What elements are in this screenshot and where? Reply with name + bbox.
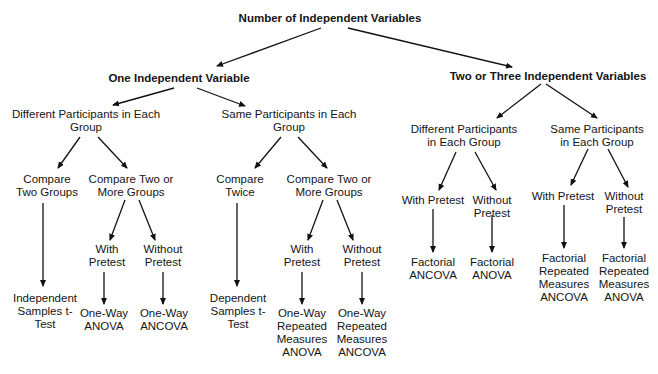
node-ts-with-pretest: With Pretest <box>532 190 595 203</box>
arrow-od-more-to-with <box>110 200 125 240</box>
result-one-way-repeated-measures-ancova: One-Way Repeated Measures ANCOVA <box>337 307 388 359</box>
arrow-diff-to-compare-two <box>58 137 80 168</box>
node-two-iv-same-participants: Same Participants in Each Group <box>550 123 643 149</box>
arrow-two-iv-to-diff <box>497 84 541 118</box>
result-independent-samples-t-test: Independent Samples t- Test <box>13 292 77 331</box>
node-compare-two-groups: Compare Two Groups <box>16 173 78 199</box>
arrow-td-to-with <box>439 152 456 190</box>
result-one-way-ancova: One-Way ANCOVA <box>140 307 188 333</box>
node-two-or-three-independent-variables: Two or Three Independent Variables <box>450 70 647 83</box>
result-factorial-ancova: Factorial ANCOVA <box>409 256 457 282</box>
arrow-os-more-to-with <box>308 200 323 240</box>
arrow-os-more-to-without <box>337 200 353 240</box>
node-od-compare-two-or-more-groups: Compare Two or More Groups <box>89 173 174 199</box>
node-os-compare-two-or-more-groups: Compare Two or More Groups <box>287 173 372 199</box>
node-one-independent-variable: One Independent Variable <box>108 72 249 85</box>
result-dependent-samples-t-test: Dependent Samples t- Test <box>210 292 266 331</box>
result-one-way-repeated-measures-anova: One-Way Repeated Measures ANOVA <box>277 307 328 359</box>
arrow-od-more-to-without <box>139 200 155 240</box>
arrow-td-to-without <box>475 152 496 190</box>
arrow-same-to-compare-twice <box>255 137 281 168</box>
arrow-same-to-compare-more <box>298 137 327 168</box>
node-td-with-pretest: With Pretest <box>402 194 465 207</box>
node-one-iv-same-participants: Same Participants in Each Group <box>222 108 357 134</box>
node-one-iv-different-participants: Different Participants in Each Group <box>12 108 160 134</box>
arrow-root-to-two-iv <box>348 28 512 67</box>
node-od-with-pretest: With Pretest <box>89 243 125 269</box>
node-os-without-pretest: Without Pretest <box>343 243 382 269</box>
arrow-ts-to-with <box>571 149 588 185</box>
result-factorial-anova: Factorial ANOVA <box>470 256 514 282</box>
node-td-without-pretest: Without Pretest <box>473 194 512 220</box>
node-number-of-independent-variables: Number of Independent Variables <box>239 12 422 25</box>
arrow-diff-to-compare-more <box>98 137 127 168</box>
result-factorial-repeated-measures-anova: Factorial Repeated Measures ANOVA <box>599 252 650 304</box>
node-two-iv-different-participants: Different Participants in Each Group <box>411 123 518 149</box>
arrow-ts-to-without <box>608 149 628 187</box>
arrow-root-to-one-iv <box>217 28 321 66</box>
arrow-one-iv-to-diff <box>113 88 174 105</box>
node-os-with-pretest: With Pretest <box>284 243 320 269</box>
result-one-way-anova: One-Way ANOVA <box>80 307 128 333</box>
node-compare-twice: Compare Twice <box>216 173 263 199</box>
result-factorial-repeated-measures-ancova: Factorial Repeated Measures ANCOVA <box>539 252 590 304</box>
node-od-without-pretest: Without Pretest <box>144 243 183 269</box>
decision-tree-diagram: Number of Independent Variables One Inde… <box>0 0 658 374</box>
arrow-one-iv-to-same <box>197 88 245 106</box>
node-ts-without-pretest: Without Pretest <box>605 190 644 216</box>
arrow-two-iv-to-same <box>546 84 597 118</box>
